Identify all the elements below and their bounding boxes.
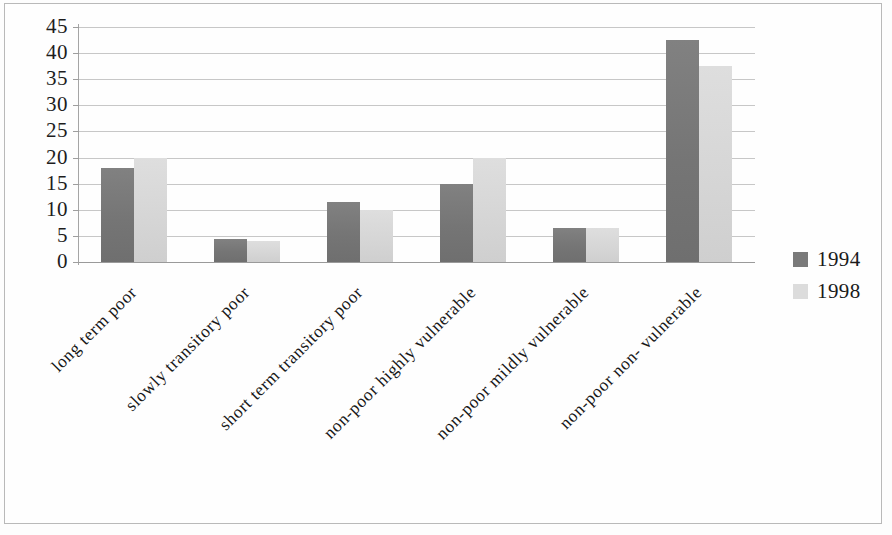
x-axis-label: non-poor highly vulnerable [282,283,479,480]
gridline-0 [78,262,755,263]
x-axis-label: non-poor mildly vulnerable [395,283,592,480]
bar-1994-non-poor-highly-vulnerable[interactable] [440,184,473,262]
y-tick-35 [73,79,79,80]
y-tick-10 [73,210,79,211]
gridline-15 [78,184,755,185]
bar-group [666,27,732,262]
bar-group [214,27,280,262]
y-tick-25 [73,131,79,132]
gridline-30 [78,105,755,106]
gridline-25 [78,131,755,132]
bar-1994-short-term-transitory-poor[interactable] [327,202,360,262]
y-tick-20 [73,158,79,159]
y-tick-5 [73,236,79,237]
y-tick-15 [73,184,79,185]
y-axis-tick-label: 15 [22,173,68,194]
y-axis-tick-label: 0 [22,251,68,272]
y-axis-tick-label: 5 [22,225,68,246]
gridline-10 [78,210,755,211]
x-axis-label: slowly transitory poor [57,283,254,480]
legend-item[interactable]: 1994 [793,243,879,275]
bar-1998-short-term-transitory-poor[interactable] [360,210,393,262]
bar-chart: 454035302520151050 long term poorslowly … [0,0,892,535]
bar-1998-non-poor-non-vulnerable[interactable] [699,66,732,262]
bar-group [327,27,393,262]
bar-1994-long-term-poor[interactable] [101,168,134,262]
gridline-20 [78,158,755,159]
y-axis-tick-label: 10 [22,199,68,220]
y-tick-30 [73,105,79,106]
legend-color-swatch [793,252,808,267]
gridline-5 [78,236,755,237]
bar-1998-long-term-poor[interactable] [134,158,167,262]
legend-label: 1994 [817,249,861,270]
chart-legend: 19941998 [793,243,879,307]
y-axis-tick-label: 45 [22,16,68,37]
y-axis-tick-label: 35 [22,68,68,89]
legend-label: 1998 [817,281,861,302]
y-axis-tick-label: 40 [22,42,68,63]
y-tick-45 [73,27,79,28]
chart-screenshot: 454035302520151050 long term poorslowly … [0,0,892,535]
bar-1998-slowly-transitory-poor[interactable] [247,241,280,262]
x-axis-label: short term transitory poor [170,283,367,480]
bar-group [101,27,167,262]
x-axis-label: non-poor non- vulnerable [508,283,705,480]
y-tick-0 [73,262,79,263]
gridline-40 [78,53,755,54]
gridline-45 [78,27,755,28]
bar-1998-non-poor-mildly-vulnerable[interactable] [586,228,619,262]
bar-group [440,27,506,262]
bar-1994-non-poor-mildly-vulnerable[interactable] [553,228,586,262]
bar-1994-slowly-transitory-poor[interactable] [214,239,247,263]
y-axis-tick-label: 20 [22,147,68,168]
y-axis-labels: 454035302520151050 [16,0,68,535]
y-tick-40 [73,53,79,54]
plot-area [78,27,755,262]
legend-color-swatch [793,284,808,299]
legend-item[interactable]: 1998 [793,275,879,307]
gridline-35 [78,79,755,80]
y-axis-tick-label: 25 [22,120,68,141]
bar-1994-non-poor-non-vulnerable[interactable] [666,40,699,262]
bar-1998-non-poor-highly-vulnerable[interactable] [473,158,506,262]
y-axis-tick-label: 30 [22,94,68,115]
bar-group [553,27,619,262]
